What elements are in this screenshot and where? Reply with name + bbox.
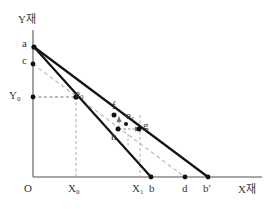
point-b	[149, 175, 154, 180]
line-c-to-d	[33, 64, 185, 177]
y-axis-label: Y재	[18, 14, 36, 25]
label-y0-sub: 0	[17, 95, 21, 103]
label-x1: X1	[132, 183, 143, 194]
label-y0-base: Y	[9, 89, 17, 101]
point-a	[31, 44, 36, 49]
x-axis-label: X재	[238, 184, 256, 195]
label-x0-base: X	[68, 182, 76, 194]
label-e1-sub: 1	[131, 115, 135, 123]
label-point-g: g	[143, 120, 149, 131]
point-bprime	[206, 175, 211, 180]
compensated-budget-line	[33, 64, 185, 177]
figure-canvas: Y재 X재 O a c Y0 e0 f e1 g h X0 X1 b d b′	[0, 0, 269, 209]
label-point-h: h	[111, 131, 117, 142]
label-e0: e0	[75, 88, 83, 99]
label-point-d: d	[182, 183, 188, 194]
point-d	[183, 175, 188, 180]
label-point-f: f	[112, 100, 116, 111]
point-y0	[31, 95, 36, 100]
label-x1-base: X	[132, 182, 140, 194]
point-c	[31, 62, 36, 67]
label-y0: Y0	[9, 90, 20, 101]
label-point-c: c	[22, 55, 27, 66]
budget-lines-group	[34, 47, 208, 177]
point-e1	[124, 122, 128, 126]
label-e0-sub: 0	[80, 93, 84, 101]
point-g	[137, 127, 142, 132]
economics-budget-line-chart	[0, 0, 269, 209]
arrow-h-to-f-head	[117, 116, 122, 122]
label-x0: X0	[68, 183, 79, 194]
origin-label: O	[24, 183, 32, 194]
label-point-a: a	[22, 38, 27, 49]
label-point-b: b	[149, 183, 155, 194]
label-x1-sub: 1	[140, 188, 144, 196]
label-point-bprime: b′	[203, 183, 211, 194]
label-e1: e1	[126, 110, 134, 121]
axes-group	[33, 30, 262, 177]
guide-lines-group	[33, 97, 140, 177]
point-f	[112, 113, 117, 118]
budget-line-a-to-bprime	[34, 47, 208, 177]
label-x0-sub: 0	[76, 188, 80, 196]
